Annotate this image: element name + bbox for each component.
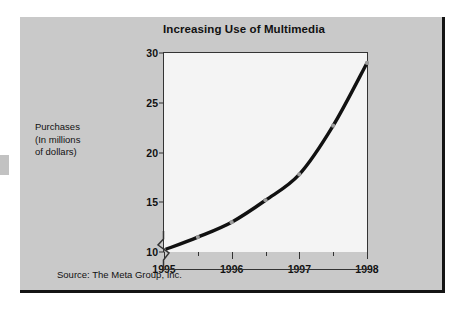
y-tick-mark bbox=[159, 202, 164, 203]
data-point-marker bbox=[365, 61, 369, 65]
y-tick-label: 30 bbox=[146, 47, 158, 59]
y-tick-label: 25 bbox=[146, 97, 158, 109]
y-tick-mark bbox=[159, 102, 164, 103]
y-tick-mark bbox=[159, 53, 164, 54]
plot-area: 10152025301995199619971998 bbox=[163, 52, 368, 252]
x-tick-mark-minor bbox=[198, 252, 199, 256]
page-edge-artifact bbox=[0, 155, 9, 175]
data-point-marker bbox=[230, 220, 234, 224]
x-axis-line bbox=[163, 269, 368, 270]
y-tick-label: 15 bbox=[146, 196, 158, 208]
x-tick-mark-minor bbox=[333, 252, 334, 256]
data-line bbox=[164, 63, 367, 250]
y-axis-label: Purchases (In millions of dollars) bbox=[35, 121, 131, 159]
source-note: Source: The Meta Group, Inc. bbox=[57, 269, 182, 280]
y-tick-label: 20 bbox=[146, 147, 158, 159]
y-axis-break-icon bbox=[156, 231, 174, 271]
plot-line-svg bbox=[164, 53, 369, 253]
x-tick-mark bbox=[299, 252, 300, 259]
x-tick-mark-minor bbox=[266, 252, 267, 256]
chart-title: Increasing Use of Multimedia bbox=[20, 23, 442, 35]
y-axis-label-line-3: of dollars) bbox=[35, 146, 131, 159]
data-point-marker bbox=[263, 198, 267, 202]
data-point-marker bbox=[331, 124, 335, 128]
data-point-marker bbox=[196, 235, 200, 239]
x-tick-mark bbox=[232, 252, 233, 259]
y-tick-mark bbox=[159, 152, 164, 153]
data-point-marker bbox=[297, 172, 301, 176]
chart-figure-frame: Increasing Use of Multimedia Purchases (… bbox=[20, 17, 445, 293]
x-tick-mark bbox=[367, 252, 368, 259]
y-axis-label-line-1: Purchases bbox=[35, 121, 131, 134]
y-axis-label-line-2: (In millions bbox=[35, 134, 131, 147]
